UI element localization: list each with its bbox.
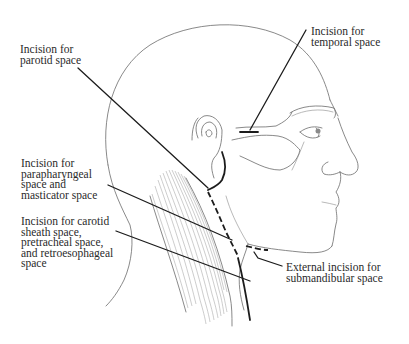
label-line: pretracheal space,: [21, 237, 113, 248]
label-line: Incision for: [21, 158, 97, 169]
label-carotid-sheath-space: Incision for carotid sheath space, pretr…: [21, 216, 113, 269]
label-submandibular-space: External incision for submandibular spac…: [286, 262, 383, 283]
label-line: Incision for: [311, 26, 380, 37]
cheek: [232, 135, 300, 170]
label-line: Incision for carotid: [21, 216, 113, 227]
brow: [290, 106, 336, 118]
leader-submandibular: [254, 252, 282, 266]
submandibular-incision: [246, 246, 268, 250]
label-line: submandibular space: [286, 273, 383, 284]
nose: [338, 118, 358, 175]
label-line: External incision for: [286, 262, 383, 273]
label-line: temporal space: [311, 37, 380, 48]
label-parotid-space: Incision for parotid space: [20, 44, 81, 65]
label-line: Incision for: [20, 44, 81, 55]
ear: [196, 116, 222, 178]
head-outline: [106, 25, 330, 165]
label-temporal-space: Incision for temporal space: [311, 26, 380, 47]
label-line: space: [21, 258, 113, 269]
leader-parotid: [78, 68, 208, 188]
leader-temporal: [250, 30, 306, 130]
label-parapharyngeal-space: Incision for parapharyngeal space and ma…: [21, 158, 97, 200]
neck-dashed-incision: [208, 192, 238, 256]
label-line: parotid space: [20, 55, 81, 66]
label-line: space and: [21, 179, 97, 190]
incision-diagram: Incision for parotid space Incision for …: [0, 0, 409, 344]
parotid-incision: [208, 152, 225, 190]
mouth-chin: [332, 172, 341, 246]
label-line: masticator space: [21, 190, 97, 201]
